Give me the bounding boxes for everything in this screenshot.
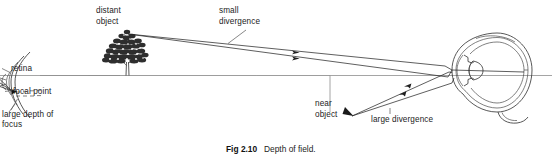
label-near-object-line1: near — [315, 99, 332, 108]
ray-arrowhead — [404, 83, 411, 88]
label-focal-point: focal point — [13, 87, 52, 96]
near-object-pointer — [343, 107, 354, 116]
large-divergence-rays — [352, 72, 452, 116]
small-divergence-leader — [228, 30, 246, 44]
figure-caption-text: Depth of field. — [264, 144, 316, 154]
label-near-object-line2: object — [315, 110, 338, 119]
diagram-canvas: retina focal point large depth of focus — [0, 0, 552, 163]
label-retina: retina — [11, 64, 32, 73]
small-divergence-rays — [128, 34, 448, 77]
figure-depth-of-field: retina focal point large depth of focus — [0, 0, 552, 163]
right-eye-cross-section — [452, 33, 532, 123]
label-distant-object-line2: object — [96, 17, 119, 26]
label-large-depth-of-focus-line2: focus — [2, 120, 22, 129]
distant-object-tree — [102, 30, 149, 76]
label-small-divergence-line1: small — [219, 6, 239, 15]
label-small-divergence-line2: divergence — [219, 17, 260, 26]
left-eye-cross-section — [0, 52, 41, 118]
figure-caption-label: Fig 2.10 — [226, 144, 258, 154]
label-distant-object-line1: distant — [96, 6, 121, 15]
label-large-depth-of-focus-line1: large depth of — [2, 110, 54, 119]
label-large-divergence: large divergence — [371, 115, 433, 124]
